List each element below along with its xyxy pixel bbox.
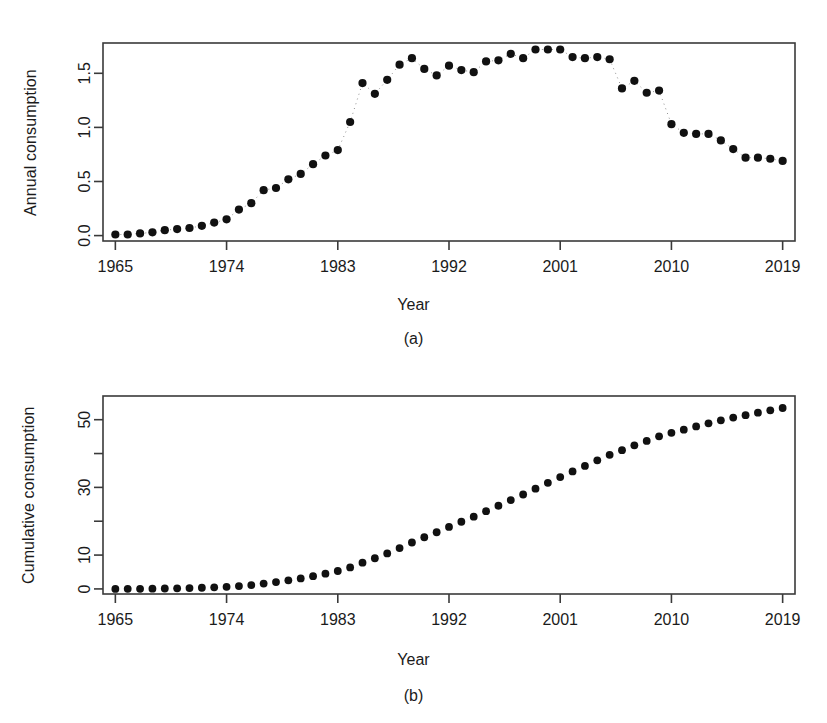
data-point — [235, 206, 243, 214]
data-point — [717, 136, 725, 144]
data-point — [630, 77, 638, 85]
data-point — [383, 76, 391, 84]
x-axis-label-year-b: Year — [0, 651, 827, 669]
data-point — [779, 404, 787, 412]
y-axis-tick-label: 1.5 — [76, 62, 93, 84]
data-point — [136, 229, 144, 237]
data-point — [185, 224, 193, 232]
plot-area-annual-consumption: 19651974198319922001201020190.00.51.01.5 — [0, 0, 827, 285]
x-axis-tick-label: 1974 — [209, 258, 245, 275]
data-point — [668, 429, 676, 437]
y-axis-tick-label: 50 — [76, 411, 93, 429]
data-point-series — [111, 404, 786, 593]
x-axis-tick-label: 1965 — [98, 258, 134, 275]
data-point — [717, 416, 725, 424]
data-point — [581, 462, 589, 470]
x-axis-tick-label: 1983 — [320, 258, 356, 275]
x-axis-tick-label: 2010 — [654, 258, 690, 275]
x-axis-tick-label: 1983 — [320, 611, 356, 628]
data-point — [124, 230, 132, 238]
data-point — [111, 230, 119, 238]
data-point — [482, 57, 490, 65]
data-point — [358, 79, 366, 87]
x-axis-tick-label: 1992 — [431, 258, 467, 275]
data-point — [495, 502, 503, 510]
data-point — [482, 507, 490, 515]
data-point — [235, 582, 243, 590]
data-point — [124, 585, 132, 593]
x-axis-tick-label: 2001 — [542, 258, 578, 275]
x-axis-tick-label: 2019 — [765, 611, 801, 628]
data-point — [581, 54, 589, 62]
data-point — [618, 446, 626, 454]
data-point — [569, 468, 577, 476]
x-axis-label-year-a: Year — [0, 296, 827, 314]
data-point — [198, 222, 206, 230]
data-point — [198, 584, 206, 592]
data-point-series — [111, 45, 786, 238]
data-point — [457, 518, 465, 526]
data-point — [544, 45, 552, 53]
y-axis-tick-label: 0 — [76, 584, 93, 593]
data-point — [408, 539, 416, 547]
data-point — [618, 84, 626, 92]
panel-b-cumulative-consumption: Cumulative consumption 19651974198319922… — [0, 361, 827, 723]
data-point — [544, 479, 552, 487]
data-point — [507, 496, 515, 504]
plot-box — [103, 396, 795, 594]
data-point — [420, 533, 428, 541]
data-point — [531, 45, 539, 53]
data-point — [260, 186, 268, 194]
data-point — [741, 154, 749, 162]
data-point — [445, 523, 453, 531]
data-point — [433, 528, 441, 536]
data-point — [704, 130, 712, 138]
data-point — [532, 485, 540, 493]
data-point — [692, 423, 700, 431]
data-point — [433, 71, 441, 79]
data-point — [297, 575, 305, 583]
series-connector — [115, 49, 782, 234]
data-point — [507, 50, 515, 58]
data-point — [593, 456, 601, 464]
data-point — [223, 583, 231, 591]
data-point — [408, 54, 416, 62]
y-axis-tick-label: 1.0 — [76, 116, 93, 138]
data-point — [322, 570, 330, 578]
data-point — [173, 584, 181, 592]
data-point — [383, 549, 391, 557]
x-axis-tick-label: 1974 — [209, 611, 245, 628]
data-point — [766, 406, 774, 414]
data-point — [334, 567, 342, 575]
data-point — [655, 432, 663, 440]
data-point — [247, 199, 255, 207]
x-axis-tick-label: 2019 — [765, 258, 801, 275]
data-point — [556, 473, 564, 481]
data-point — [161, 585, 169, 593]
data-point — [729, 414, 737, 422]
plot-box — [103, 43, 795, 241]
data-point — [766, 155, 774, 163]
data-point — [247, 581, 255, 589]
data-point — [346, 564, 354, 572]
data-point — [630, 441, 638, 449]
data-point — [371, 554, 379, 562]
data-point — [470, 513, 478, 521]
data-point — [606, 55, 614, 63]
data-point — [754, 409, 762, 417]
plot-area-cumulative-consumption: 19651974198319922001201020190103050 — [0, 361, 827, 646]
data-point — [210, 583, 218, 591]
y-axis-tick-label: 30 — [76, 478, 93, 496]
data-point — [136, 585, 144, 593]
data-point — [667, 120, 675, 128]
data-point — [680, 426, 688, 434]
data-point — [346, 118, 354, 126]
y-axis-tick-label: 0.5 — [76, 170, 93, 192]
data-point — [470, 68, 478, 76]
data-point — [643, 437, 651, 445]
data-point — [729, 145, 737, 153]
data-point — [396, 544, 404, 552]
data-point — [692, 130, 700, 138]
data-point — [309, 572, 317, 580]
data-point — [148, 228, 156, 236]
